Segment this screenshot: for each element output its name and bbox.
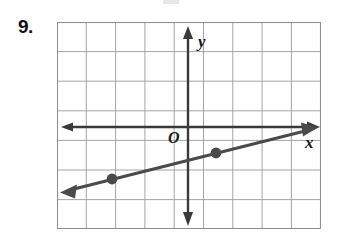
plotted-point <box>107 174 118 185</box>
scan-artifact <box>163 0 179 4</box>
coordinate-plane-svg: y x O <box>57 22 321 229</box>
y-axis-label: y <box>196 32 206 51</box>
figure-root: 9. <box>0 0 338 240</box>
origin-label: O <box>168 129 180 146</box>
plotted-point <box>211 148 222 159</box>
problem-number: 9. <box>18 17 33 36</box>
graph-area: y x O <box>57 22 321 229</box>
x-axis-label: x <box>304 133 314 152</box>
